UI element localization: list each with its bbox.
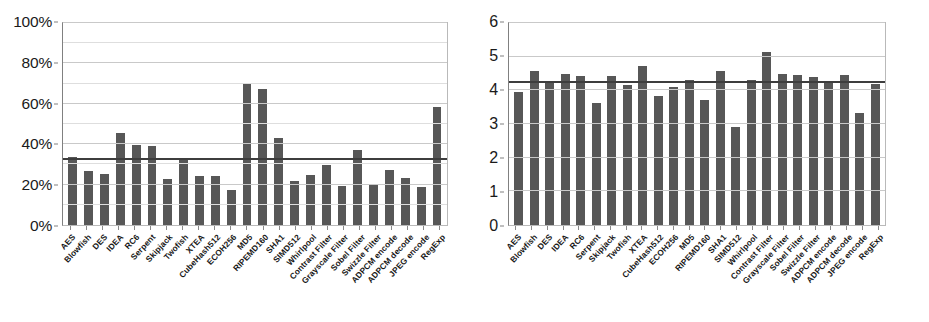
bar (433, 107, 442, 225)
bar (716, 71, 725, 225)
x-axis-tick-mark (657, 226, 658, 230)
bar-slot (334, 23, 350, 225)
gridline-minor (63, 83, 447, 84)
bar (840, 75, 849, 225)
x-axis-tick-mark (327, 226, 328, 230)
gridline-minor (63, 123, 447, 124)
x-axis-tick-mark (198, 226, 199, 230)
bar-slot (759, 23, 775, 225)
bar (731, 127, 740, 225)
bar-slot (144, 23, 160, 225)
x-axis-tick-mark (263, 226, 264, 230)
y-axis-tick-label: 4 (489, 81, 498, 99)
bar-slot (318, 23, 334, 225)
x-axis-tick-mark (704, 226, 705, 230)
bar-slot (97, 23, 113, 225)
y-axis-tick-label: 40% (22, 135, 52, 153)
bar (545, 82, 554, 225)
bar (322, 165, 331, 225)
bar-slot (635, 23, 651, 225)
y-axis-tick-label: 5 (489, 47, 498, 65)
average-line-right (509, 81, 885, 83)
y-axis-tick-label: 3 (489, 115, 498, 133)
chart-panel-right: 0123456 AESBlowfishDESIDEARC6SerpentSkip… (464, 0, 928, 322)
bar-slot (65, 23, 81, 225)
x-axis-tick-mark (150, 226, 151, 230)
x-axis-tick-mark (531, 226, 532, 230)
bar (700, 100, 709, 225)
plot-wrap-left (62, 22, 448, 226)
bar-slot (239, 23, 255, 225)
y-axis-tick-mark (54, 226, 58, 227)
bar-slot (207, 23, 223, 225)
x-axis-tick-mark (830, 226, 831, 230)
bar (100, 174, 109, 226)
bar (654, 96, 663, 225)
y-axis-tick-label: 0% (30, 217, 52, 235)
bars-layer-left (63, 23, 447, 225)
bar (179, 159, 188, 225)
plot-area-right (508, 22, 886, 226)
gridline (63, 62, 447, 63)
x-axis-tick-mark (563, 226, 564, 230)
x-axis-tick-mark (343, 226, 344, 230)
bar-slot (429, 23, 445, 225)
bar (514, 92, 523, 225)
bar-slot (302, 23, 318, 225)
bar-slot (397, 23, 413, 225)
bar-slot (868, 23, 884, 225)
bar-slot (176, 23, 192, 225)
bar (623, 85, 632, 225)
bar-slot (558, 23, 574, 225)
x-axis-labels-left: AESBlowfishDESIDEARC6SerpentSkipjackTwof… (62, 228, 448, 320)
bar (824, 83, 833, 225)
bar-slot (790, 23, 806, 225)
x-axis-labels-right: AESBlowfishDESIDEARC6SerpentSkipjackTwof… (508, 228, 886, 320)
gridline (509, 123, 885, 124)
bar-slot (255, 23, 271, 225)
bar-slot (527, 23, 543, 225)
bars-layer-right (509, 23, 885, 225)
x-axis-tick-mark (102, 226, 103, 230)
gridline-minor (63, 204, 447, 205)
gridline (63, 22, 447, 23)
x-axis-tick-mark (752, 226, 753, 230)
bar-slot (128, 23, 144, 225)
y-axis-left: 0%20%40%60%80%100% (0, 22, 58, 226)
bar-slot (511, 23, 527, 225)
bar-slot (821, 23, 837, 225)
x-axis-tick-mark (736, 226, 737, 230)
bar (274, 138, 283, 225)
y-axis-tick-label: 1 (489, 183, 498, 201)
x-axis-tick-mark (182, 226, 183, 230)
y-axis-tick-mark (54, 144, 58, 145)
y-axis-tick-mark (500, 158, 504, 159)
bar-slot (350, 23, 366, 225)
x-axis-tick-mark (641, 226, 642, 230)
x-axis-tick-mark (279, 226, 280, 230)
bar-slot (806, 23, 822, 225)
bar-slot (852, 23, 868, 225)
x-axis-tick-mark (423, 226, 424, 230)
x-axis-tick-mark (311, 226, 312, 230)
bar-slot (573, 23, 589, 225)
x-axis-tick-mark (214, 226, 215, 230)
bar-slot (666, 23, 682, 225)
bar-slot (382, 23, 398, 225)
gridline-minor (63, 163, 447, 164)
y-axis-tick-label: 0 (489, 217, 498, 235)
bar (163, 179, 172, 225)
x-axis-tick-mark (846, 226, 847, 230)
chart-panel-left: 0%20%40%60%80%100% AESBlowfishDESIDEARC6… (0, 0, 464, 322)
gridline (509, 56, 885, 57)
bar-slot (81, 23, 97, 225)
bar (561, 74, 570, 226)
x-axis-tick-mark (720, 226, 721, 230)
y-axis-tick-mark (500, 22, 504, 23)
bar-slot (713, 23, 729, 225)
gridline (509, 190, 885, 191)
bar-slot (604, 23, 620, 225)
x-axis-tick-mark (673, 226, 674, 230)
x-axis-tick-mark (230, 226, 231, 230)
y-axis-tick-label: 6 (489, 13, 498, 31)
